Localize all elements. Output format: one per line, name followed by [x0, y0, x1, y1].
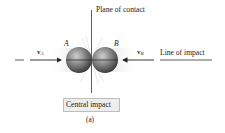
central-impact-title: Central impact	[66, 101, 111, 109]
figure-caption: (a)	[86, 117, 94, 124]
velocity-b-label: vB	[137, 49, 144, 56]
point-b-label: B	[114, 40, 119, 48]
impact-drawing	[0, 0, 225, 133]
central-impact-diagram: Plane of contact Line of impact A B vA v…	[0, 0, 225, 133]
point-a-label: A	[64, 40, 69, 48]
velocity-b-subscript: B	[141, 51, 144, 56]
plane-of-contact-label: Plane of contact	[96, 6, 145, 14]
velocity-a-label: vA	[37, 49, 44, 56]
line-of-impact-label: Line of impact	[160, 49, 205, 57]
velocity-a-subscript: A	[41, 51, 44, 56]
